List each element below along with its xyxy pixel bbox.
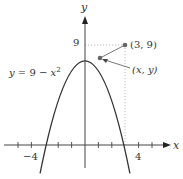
point-label-3-9: (3, 9) <box>130 39 157 50</box>
parabola-diagram: y x 9 −4 4 (3, 9) (x, y) y = 9 − x2 <box>0 0 183 179</box>
point-x-y <box>98 56 103 61</box>
y-axis-arrow-icon <box>82 16 88 24</box>
x-axis-label: x <box>173 139 180 152</box>
connector-line <box>100 45 125 58</box>
pointer-line <box>105 60 130 68</box>
tick-label-neg4: −4 <box>23 151 38 162</box>
x-axis-arrow-icon <box>163 142 171 148</box>
point-label-x-y: (x, y) <box>132 64 158 75</box>
function-label: y = 9 − x2 <box>8 66 61 78</box>
point-3-9 <box>123 43 128 48</box>
tick-label-9: 9 <box>73 37 79 48</box>
tick-label-4: 4 <box>135 151 141 162</box>
y-axis-label: y <box>80 1 88 14</box>
